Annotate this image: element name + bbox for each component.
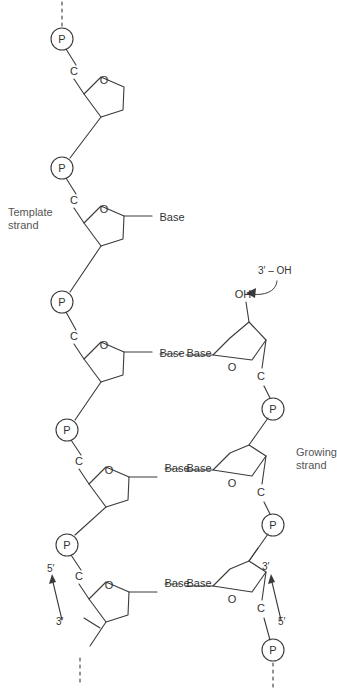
bond-c-sugar bbox=[79, 469, 89, 484]
bond-p-sugar bbox=[249, 418, 268, 445]
ring-oxygen-label: O bbox=[105, 464, 114, 476]
base-label: Base bbox=[159, 347, 184, 359]
ring-oxygen-label: O bbox=[100, 74, 109, 86]
bond-sugar-p-next bbox=[75, 507, 106, 535]
bond-p-c bbox=[66, 178, 76, 194]
carbon-label: C bbox=[70, 65, 78, 77]
ring-oxygen-label: O bbox=[228, 593, 237, 605]
bond-sugar-p-next bbox=[75, 382, 101, 420]
carbon-label: C bbox=[75, 455, 83, 467]
phosphate-label: P bbox=[269, 519, 276, 531]
sugar-ring bbox=[213, 445, 266, 476]
bond-c-sugar bbox=[74, 344, 84, 359]
bond-c-p bbox=[264, 386, 270, 398]
bond-c-sugar bbox=[74, 208, 84, 223]
ring-oxygen-label: O bbox=[228, 361, 237, 373]
bond-c-p bbox=[264, 502, 270, 514]
phosphate-label: P bbox=[58, 296, 65, 308]
bond-c-sugar bbox=[74, 79, 84, 94]
base-label: Base bbox=[186, 577, 211, 589]
sugar-ring bbox=[213, 561, 266, 592]
template-strand-label: Template strand bbox=[8, 206, 53, 232]
phosphate-label: P bbox=[58, 33, 65, 45]
carbon-label: C bbox=[257, 602, 265, 614]
growing-strand-label: Growing strand bbox=[296, 446, 337, 472]
bond-p-c bbox=[66, 49, 76, 65]
template-five-prime-label: 5′ bbox=[47, 563, 55, 574]
base-label: Base bbox=[186, 347, 211, 359]
dna-replication-diagram: P P P P P P P P C C C C C C C C O O O O … bbox=[0, 0, 337, 697]
carbon-label: C bbox=[70, 194, 78, 206]
three-prime-oh-callout: 3′ – OH bbox=[258, 265, 292, 276]
growing-direction-arrow-head bbox=[268, 574, 275, 584]
bond-sugar-p-next bbox=[70, 246, 101, 292]
template-direction-arrow-shaft bbox=[52, 578, 62, 620]
ring-oxygen-label: O bbox=[105, 579, 114, 591]
phosphate-label: P bbox=[269, 403, 276, 415]
carbon-label: C bbox=[257, 370, 265, 382]
ring-oxygen-label: O bbox=[228, 477, 237, 489]
bond-c-sugar bbox=[79, 584, 89, 599]
bond-three-prime-tick bbox=[249, 548, 258, 561]
ring-oxygen-label: O bbox=[100, 203, 109, 215]
ring-oxygen-label: O bbox=[100, 339, 109, 351]
bond-sugar-tail bbox=[90, 622, 106, 646]
dna-structure-svg: P P P P P P P P C C C C C C C C O O O O … bbox=[0, 0, 337, 697]
growing-five-prime-label: 5′ bbox=[278, 616, 286, 627]
bond-sugar-oh bbox=[246, 302, 249, 322]
sugar-ring bbox=[213, 322, 266, 360]
bond-p-c bbox=[71, 440, 81, 455]
bond-three-prime-tick bbox=[84, 618, 100, 628]
phosphate-label: P bbox=[58, 162, 65, 174]
phosphate-label: P bbox=[63, 424, 70, 436]
growing-direction-arrow-shaft bbox=[271, 578, 281, 620]
bond-c-p bbox=[264, 618, 270, 640]
growing-three-prime-label: 3′ bbox=[262, 561, 270, 572]
bond-p-c bbox=[71, 555, 81, 570]
bond-sugar-p-next bbox=[70, 117, 101, 158]
hydroxyl-label: OH bbox=[235, 288, 252, 300]
template-direction-arrow-head bbox=[49, 574, 56, 584]
base-label: Base bbox=[159, 211, 184, 223]
carbon-label: C bbox=[257, 486, 265, 498]
base-label: Base bbox=[186, 462, 211, 474]
carbon-label: C bbox=[75, 570, 83, 582]
bond-p-c bbox=[66, 312, 76, 330]
phosphate-label: P bbox=[269, 644, 276, 656]
template-three-prime-label: 3′ bbox=[56, 616, 64, 627]
phosphate-label: P bbox=[63, 539, 70, 551]
carbon-label: C bbox=[70, 330, 78, 342]
